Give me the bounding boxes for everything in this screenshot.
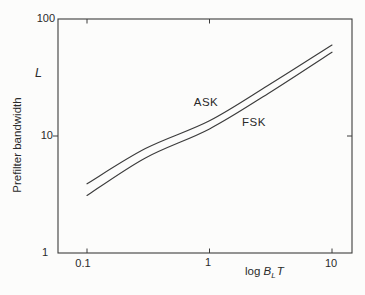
series-label-ask: ASK <box>191 96 221 108</box>
x-axis-title: log BLT <box>245 265 284 280</box>
x-tick-label-1: 1 <box>196 257 220 268</box>
y-axis-title: Prefilter bandwidth <box>11 97 23 192</box>
y-tick-label-10: 10 <box>41 130 53 141</box>
x-axis-log-text: log <box>245 265 264 277</box>
ask-curve <box>87 45 332 184</box>
x-axis-subscript: L <box>271 271 275 280</box>
chart-canvas <box>0 0 365 295</box>
figure: Prefilter bandwidth L 100 10 1 0.1 1 10 … <box>0 0 365 295</box>
plot-box <box>58 19 352 253</box>
y-axis-symbol: L <box>35 66 42 80</box>
x-tick-label-0.1: 0.1 <box>70 258 96 269</box>
y-tick-label-100: 100 <box>37 13 55 24</box>
x-tick-label-10: 10 <box>319 258 343 269</box>
series-label-fsk: FSK <box>239 116 269 128</box>
fsk-curve <box>87 52 332 195</box>
y-tick-label-1: 1 <box>42 247 48 258</box>
x-axis-T-symbol: T <box>277 265 284 277</box>
